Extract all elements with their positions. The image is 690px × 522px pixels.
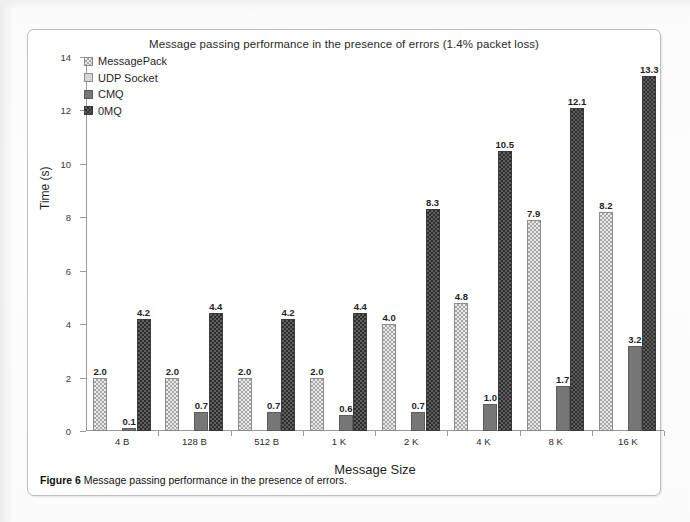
chart-title: Message passing performance in the prese… — [28, 38, 660, 50]
y-tick-label: 6 — [66, 265, 71, 276]
legend-label: MessagePack — [98, 55, 167, 67]
bar-zeromq: 12.1 — [570, 108, 584, 431]
bar-value-label: 3.2 — [628, 334, 641, 345]
bar-value-label: 4.4 — [209, 301, 222, 312]
bar-value-label: 2.0 — [94, 366, 107, 377]
bar-value-label: 2.0 — [238, 366, 251, 377]
bar-group: 7.91.712.18 K — [520, 57, 592, 431]
x-tick-label: 1 K — [303, 436, 375, 447]
bar-messagepack: 2.0 — [238, 378, 252, 431]
x-tick-label: 4 K — [447, 436, 519, 447]
legend-label: 0MQ — [98, 105, 122, 117]
bar-value-label: 0.1 — [122, 416, 135, 427]
bar-group: 2.00.64.41 K — [303, 57, 375, 431]
figure-box: Message passing performance in the prese… — [27, 29, 661, 496]
bar-group: 2.00.74.2512 B — [231, 57, 303, 431]
bar-messagepack: 2.0 — [310, 378, 324, 431]
y-tick-label: 4 — [66, 319, 71, 330]
legend-swatch-icon — [84, 90, 93, 99]
y-tick-label: 8 — [66, 212, 71, 223]
bar-group: 4.81.010.54 K — [447, 57, 519, 431]
y-tick-label: 10 — [60, 158, 71, 169]
x-tick-label: 4 B — [86, 436, 158, 447]
bar-value-label: 2.0 — [310, 366, 323, 377]
bar-group: 4.00.78.32 K — [375, 57, 447, 431]
bar-group: 8.23.213.316 K — [592, 57, 664, 431]
legend-swatch-icon — [84, 57, 93, 66]
bar-value-label: 4.4 — [354, 301, 367, 312]
y-tick-label: 12 — [60, 105, 71, 116]
legend-item-udp-socket[interactable]: UDP Socket — [84, 72, 167, 84]
bar-cmq: 0.1 — [122, 428, 136, 431]
bar-messagepack: 4.0 — [382, 324, 396, 431]
bar-zeromq: 10.5 — [498, 151, 512, 432]
scan-edge-top — [0, 0, 690, 10]
bar-zeromq: 4.2 — [281, 319, 295, 431]
bar-cmq: 0.7 — [267, 412, 281, 431]
bar-value-label: 8.3 — [426, 197, 439, 208]
bar-messagepack: 2.0 — [93, 378, 107, 431]
x-tick-label: 2 K — [375, 436, 447, 447]
bar-group: 2.00.74.4128 B — [158, 57, 230, 431]
legend-item-zeromq[interactable]: 0MQ — [84, 105, 167, 117]
y-axis-title: Time (s) — [38, 166, 52, 210]
y-tick: 0 — [80, 431, 86, 432]
bar-zeromq: 4.4 — [209, 313, 223, 431]
bar-cmq: 1.0 — [483, 404, 497, 431]
bar-value-label: 13.3 — [640, 64, 659, 75]
bar-zeromq: 8.3 — [426, 209, 440, 431]
bar-messagepack: 8.2 — [599, 212, 613, 431]
bar-messagepack: 2.0 — [165, 378, 179, 431]
bar-value-label: 10.5 — [496, 139, 515, 150]
bar-value-label: 2.0 — [166, 366, 179, 377]
x-tick — [664, 431, 665, 436]
bar-value-label: 4.0 — [383, 312, 396, 323]
bar-cmq: 1.7 — [556, 386, 570, 431]
y-tick-label: 0 — [66, 426, 71, 437]
bar-value-label: 1.0 — [484, 392, 497, 403]
plot-area: 02468101214 2.00.14.24 B2.00.74.4128 B2.… — [86, 57, 664, 431]
legend-item-messagepack[interactable]: MessagePack — [84, 55, 167, 67]
bar-messagepack: 7.9 — [527, 220, 541, 431]
bar-zeromq: 4.4 — [353, 313, 367, 431]
bar-value-label: 4.8 — [455, 291, 468, 302]
y-tick-label: 14 — [60, 52, 71, 63]
bar-value-label: 1.7 — [556, 374, 569, 385]
legend-label: CMQ — [98, 88, 124, 100]
bar-value-label: 12.1 — [568, 96, 587, 107]
bar-cmq: 0.7 — [194, 412, 208, 431]
legend-swatch-icon — [84, 106, 93, 115]
bar-messagepack: 4.8 — [454, 303, 468, 431]
figure-caption-prefix: Figure 6 — [40, 474, 81, 486]
bar-value-label: 0.7 — [195, 400, 208, 411]
legend-swatch-icon — [84, 73, 93, 82]
legend-label: UDP Socket — [98, 72, 158, 84]
bar-value-label: 4.2 — [137, 307, 150, 318]
chart-legend: MessagePackUDP SocketCMQ0MQ — [84, 55, 167, 117]
bar-value-label: 4.2 — [281, 307, 294, 318]
bar-value-label: 0.6 — [339, 403, 352, 414]
bar-value-label: 7.9 — [527, 208, 540, 219]
y-tick-label: 2 — [66, 372, 71, 383]
bar-value-label: 8.2 — [599, 200, 612, 211]
bar-cmq: 0.7 — [411, 412, 425, 431]
scan-edge-left — [0, 0, 13, 522]
x-tick-label: 512 B — [231, 436, 303, 447]
x-tick-label: 128 B — [158, 436, 230, 447]
bar-value-label: 0.7 — [267, 400, 280, 411]
bar-value-label: 0.7 — [411, 400, 424, 411]
figure-caption: Figure 6 Message passing performance in … — [40, 474, 347, 486]
legend-item-cmq[interactable]: CMQ — [84, 88, 167, 100]
bar-zeromq: 4.2 — [137, 319, 151, 431]
bar-zeromq: 13.3 — [642, 76, 656, 431]
x-tick-label: 8 K — [520, 436, 592, 447]
figure-caption-text: Message passing performance in the prese… — [84, 474, 347, 486]
bar-cmq: 0.6 — [339, 415, 353, 431]
x-tick-label: 16 K — [592, 436, 664, 447]
bar-cmq: 3.2 — [628, 346, 642, 431]
figure-page: Message passing performance in the prese… — [0, 0, 690, 522]
